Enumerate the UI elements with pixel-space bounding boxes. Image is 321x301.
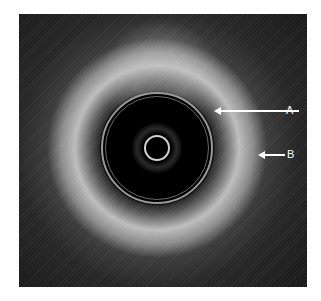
catheter-ring (144, 135, 170, 161)
label-a: A (286, 105, 293, 116)
label-b: B (287, 149, 294, 160)
pointer-line-b (263, 154, 285, 156)
ultrasound-image: A B (19, 14, 307, 287)
arrowhead-a (214, 107, 221, 115)
arrowhead-b (258, 151, 265, 159)
